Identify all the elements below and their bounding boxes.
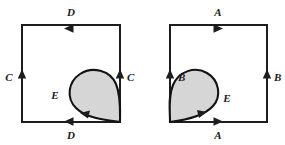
right-top-edge-label: A: [213, 6, 221, 18]
left-left-edge-label: C: [5, 71, 13, 83]
right-loop-path: [170, 70, 219, 122]
figure-container: D D C C E A A B B E: [0, 0, 285, 145]
left-right-arrow-icon: [116, 69, 124, 79]
left-top-edge-label: D: [66, 6, 75, 18]
topology-diagram: D D C C E A A B B E: [0, 0, 285, 145]
left-bottom-edge-label: D: [66, 129, 75, 141]
left-loop-label: E: [50, 89, 58, 101]
right-left-edge-label: B: [177, 71, 185, 83]
left-left-arrow-icon: [18, 69, 26, 79]
right-left-arrow-icon: [166, 69, 174, 79]
right-right-edge-label: B: [273, 71, 281, 83]
right-bottom-arrow-icon: [214, 117, 224, 126]
right-panel: A A B B E: [166, 6, 282, 141]
right-loop-label: E: [222, 92, 230, 104]
left-bottom-arrow-icon: [64, 117, 74, 126]
left-panel: D D C C E: [5, 6, 135, 141]
left-loop-path: [70, 70, 120, 122]
right-right-arrow-icon: [263, 69, 271, 79]
left-right-edge-label: C: [127, 71, 135, 83]
right-bottom-edge-label: A: [213, 129, 221, 141]
